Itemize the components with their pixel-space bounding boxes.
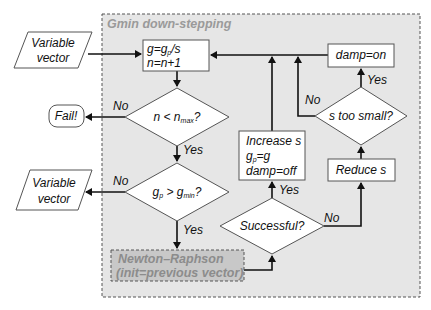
- svg-text:Reduce s: Reduce s: [336, 163, 387, 177]
- svg-text:vector: vector: [37, 51, 71, 65]
- svg-text:n=n+1: n=n+1: [147, 56, 181, 70]
- svg-text:damp=on: damp=on: [336, 48, 387, 62]
- svg-text:Newton–Raphson: Newton–Raphson: [118, 252, 224, 266]
- label-yes-success: Yes: [279, 183, 299, 197]
- svg-text:g=gp/s: g=gp/s: [147, 42, 181, 57]
- svg-text:n < nmax?: n < nmax?: [154, 110, 201, 124]
- label-no-success: No: [324, 211, 340, 225]
- svg-text:gp=g: gp=g: [246, 149, 271, 164]
- group-title: Gmin down-stepping: [107, 17, 232, 31]
- input-variable-vector-top: Variable vector: [14, 32, 92, 68]
- svg-text:s too small?: s too small?: [329, 109, 393, 123]
- svg-text:Increase s: Increase s: [246, 134, 301, 148]
- input-variable-vector-bottom: Variable vector: [16, 170, 92, 210]
- process-newton-raphson: Newton–Raphson (init=previous vector): [111, 250, 244, 281]
- label-yes-n: Yes: [183, 143, 203, 157]
- label-no-s: No: [305, 93, 321, 107]
- svg-text:damp=off: damp=off: [246, 164, 298, 178]
- process-update-g: g=gp/s n=n+1: [143, 40, 209, 71]
- process-reduce-s: Reduce s: [328, 159, 395, 181]
- label-no-g: No: [113, 174, 129, 188]
- svg-text:Successful?: Successful?: [240, 219, 305, 233]
- process-increase-s: Increase s gp=g damp=off: [239, 131, 305, 180]
- process-damp-on: damp=on: [328, 44, 394, 67]
- label-no-n: No: [113, 99, 129, 113]
- label-yes-s: Yes: [367, 73, 387, 87]
- svg-text:(init=previous vector): (init=previous vector): [116, 266, 243, 280]
- svg-text:Variable: Variable: [32, 176, 76, 190]
- flowchart: Gmin down-stepping Variable ve: [0, 0, 431, 310]
- label-yes-g: Yes: [183, 223, 203, 237]
- svg-text:Variable: Variable: [31, 36, 75, 50]
- svg-text:Fail!: Fail!: [55, 109, 78, 123]
- svg-text:vector: vector: [38, 192, 72, 206]
- terminal-fail: Fail!: [49, 105, 84, 127]
